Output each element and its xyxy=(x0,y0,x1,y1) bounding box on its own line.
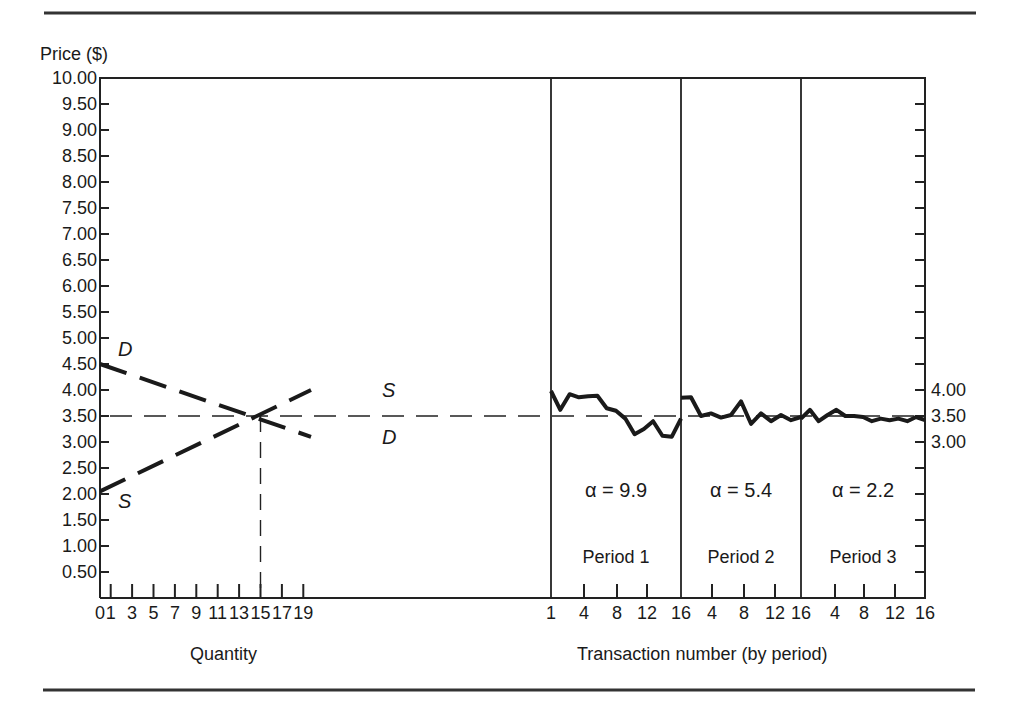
quantity-tick-label: 15 xyxy=(250,603,270,623)
transaction-tick-label: 8 xyxy=(612,603,622,623)
quantity-tick-label: 3 xyxy=(127,603,137,623)
demand-curve xyxy=(100,364,311,437)
y-tick-label: 5.00 xyxy=(62,328,97,348)
supply-demand-price-chart: Price ($) 10.009.509.008.508.007.507.006… xyxy=(0,0,1016,715)
transaction-tick-label: 12 xyxy=(637,603,657,623)
y-tick-label: 2.00 xyxy=(62,484,97,504)
transaction-tick-label: 16 xyxy=(915,603,935,623)
period-price-line xyxy=(551,391,681,437)
y-tick-label: 5.50 xyxy=(62,302,97,322)
y-tick-label: 7.50 xyxy=(62,198,97,218)
quantity-axis-ticks: 0135791113151719 xyxy=(95,584,313,623)
transaction-tick-label: 4 xyxy=(707,603,717,623)
y-tick-label: 8.00 xyxy=(62,172,97,192)
quantity-tick-label: 19 xyxy=(293,603,313,623)
quantity-axis-title: Quantity xyxy=(190,644,257,664)
quantity-tick-label: 11 xyxy=(208,603,227,623)
transaction-tick-label: 4 xyxy=(579,603,589,623)
period-label: Period 3 xyxy=(829,547,896,567)
supply-label-top: S xyxy=(382,379,396,401)
transaction-price-series xyxy=(551,391,925,437)
period-price-line xyxy=(681,397,801,424)
plot-frame xyxy=(100,78,925,598)
alpha-label: α = 9.9 xyxy=(585,479,647,501)
y-tick-label: 3.50 xyxy=(62,406,97,426)
y-tick-label: 6.00 xyxy=(62,276,97,296)
right-y-tick-label: 3.50 xyxy=(931,406,966,426)
y-tick-label: 1.00 xyxy=(62,536,97,556)
transaction-tick-label: 12 xyxy=(765,603,785,623)
period-annotations: α = 9.9Period 1α = 5.4Period 2α = 2.2Per… xyxy=(582,479,896,567)
supply-label-bottom: S xyxy=(118,490,132,512)
quantity-tick-label: 1 xyxy=(106,603,116,623)
y-tick-label: 1.50 xyxy=(62,510,97,530)
y-tick-label: 10.00 xyxy=(52,68,97,88)
right-y-tick-label: 3.00 xyxy=(931,432,966,452)
transaction-tick-label: 4 xyxy=(830,603,840,623)
transaction-tick-label: 1 xyxy=(546,603,556,623)
y-tick-label: 0.50 xyxy=(62,562,97,582)
alpha-label: α = 2.2 xyxy=(832,479,894,501)
quantity-tick-label: 7 xyxy=(170,603,180,623)
transaction-tick-label: 12 xyxy=(885,603,905,623)
quantity-tick-label: 13 xyxy=(229,603,249,623)
period-label: Period 1 xyxy=(582,547,649,567)
quantity-tick-label: 0 xyxy=(95,603,105,623)
y-axis-title: Price ($) xyxy=(40,44,108,64)
quantity-tick-label: 9 xyxy=(191,603,201,623)
y-tick-label: 4.00 xyxy=(62,380,97,400)
y-tick-label: 9.00 xyxy=(62,120,97,140)
y-tick-label: 8.50 xyxy=(62,146,97,166)
transaction-tick-label: 8 xyxy=(859,603,869,623)
y-tick-label: 7.00 xyxy=(62,224,97,244)
transaction-tick-label: 8 xyxy=(739,603,749,623)
y-tick-label: 3.00 xyxy=(62,432,97,452)
quantity-tick-label: 17 xyxy=(272,603,292,623)
transaction-tick-label: 16 xyxy=(791,603,811,623)
transaction-axis-title: Transaction number (by period) xyxy=(577,644,827,664)
demand-label-top: D xyxy=(118,338,132,360)
transaction-tick-label: 16 xyxy=(671,603,691,623)
y-tick-label: 6.50 xyxy=(62,250,97,270)
right-y-tick-label: 4.00 xyxy=(931,380,966,400)
y-tick-label: 9.50 xyxy=(62,94,97,114)
quantity-tick-label: 5 xyxy=(148,603,158,623)
supply-curve xyxy=(100,390,311,491)
y-tick-label: 4.50 xyxy=(62,354,97,374)
alpha-label: α = 5.4 xyxy=(710,479,772,501)
y-tick-label: 2.50 xyxy=(62,458,97,478)
demand-label-bottom: D xyxy=(382,426,396,448)
right-y-axis-ticks: 4.003.503.00 xyxy=(915,104,966,572)
period-label: Period 2 xyxy=(707,547,774,567)
transaction-axis-ticks: 1481216481216481216 xyxy=(546,584,935,623)
